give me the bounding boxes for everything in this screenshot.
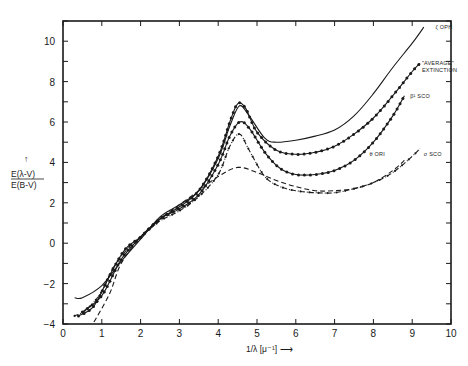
y-axis-title-numerator: E(λ-V) <box>11 169 35 179</box>
x-tick-label: 3 <box>177 328 183 339</box>
data-point-marker <box>114 269 117 272</box>
data-point-marker <box>308 191 310 193</box>
x-tick-label: 7 <box>332 328 338 339</box>
data-point-marker <box>383 105 386 108</box>
data-point-marker <box>247 126 250 129</box>
y-tick-label: −4 <box>44 319 56 330</box>
data-point-marker <box>344 165 347 168</box>
data-point-marker <box>256 132 259 135</box>
data-point-marker <box>234 105 237 108</box>
data-point-marker <box>371 142 374 145</box>
data-point-marker <box>394 170 396 172</box>
data-point-marker <box>142 234 144 236</box>
data-point-marker <box>399 102 402 105</box>
series-label-ori: θ ORI <box>370 151 386 157</box>
data-point-marker <box>333 169 336 172</box>
plot-border <box>63 21 451 324</box>
data-point-marker <box>408 158 410 160</box>
data-point-marker <box>267 156 270 159</box>
data-point-marker <box>237 121 240 124</box>
data-point-marker <box>321 172 324 175</box>
data-point-marker <box>382 128 385 131</box>
data-point-marker <box>299 190 301 192</box>
data-point-marker <box>213 180 215 182</box>
data-point-marker <box>225 156 227 158</box>
data-point-marker <box>342 140 345 143</box>
data-point-marker <box>108 280 111 283</box>
data-point-marker <box>74 315 76 317</box>
data-point-marker <box>228 136 231 139</box>
data-point-marker <box>275 164 278 167</box>
data-point-marker <box>232 139 234 141</box>
data-point-marker <box>378 179 380 181</box>
data-point-marker <box>344 190 346 192</box>
data-point-marker <box>309 152 312 155</box>
data-point-marker <box>362 185 364 187</box>
data-point-marker <box>248 115 251 118</box>
data-point-marker <box>82 311 84 313</box>
data-point-marker <box>347 136 350 139</box>
data-point-marker <box>233 125 236 128</box>
data-point-marker <box>243 139 245 141</box>
data-point-marker <box>213 169 216 172</box>
y-tick-label: 2 <box>49 198 55 209</box>
data-point-marker <box>251 131 254 134</box>
data-point-marker <box>264 140 267 143</box>
y-axis-title-denominator: E(B-V) <box>11 180 37 190</box>
x-tick-label: 0 <box>60 328 66 339</box>
data-point-marker <box>200 193 202 195</box>
data-point-marker <box>317 192 319 194</box>
data-point-marker <box>155 223 157 225</box>
data-point-marker <box>256 163 258 165</box>
data-point-marker <box>327 171 330 174</box>
data-point-marker <box>303 153 306 156</box>
data-point-marker <box>291 172 294 175</box>
data-point-marker <box>89 306 91 308</box>
data-point-marker <box>218 173 220 175</box>
extinction-chart: 012345678910−4−20246810 ζ OPH"AVERAGE"EX… <box>0 0 468 366</box>
data-point-marker <box>353 188 355 190</box>
data-point-marker <box>222 164 224 166</box>
data-point-marker <box>252 155 254 157</box>
data-point-marker <box>337 143 340 146</box>
y-tick-label: 0 <box>49 238 55 249</box>
data-point-marker <box>413 67 416 70</box>
data-point-marker <box>261 171 263 173</box>
data-point-marker <box>366 122 369 125</box>
series-label-average-extinction: "AVERAGE"EXTINCTION <box>422 60 457 73</box>
data-point-marker <box>396 108 399 111</box>
series-labels: ζ OPH"AVERAGE"EXTINCTIONβ¹ SCOθ ORIσ SCO <box>370 24 458 157</box>
data-point-marker <box>208 172 211 175</box>
data-point-marker <box>221 153 224 156</box>
data-point-marker <box>171 214 173 216</box>
data-point-marker <box>386 175 388 177</box>
data-point-marker <box>405 77 408 80</box>
data-point-marker <box>326 192 328 194</box>
data-point-marker <box>282 187 284 189</box>
data-point-marker <box>315 173 318 176</box>
data-point-marker <box>390 95 393 98</box>
x-tick-label: 5 <box>254 328 260 339</box>
data-point-marker <box>260 136 263 139</box>
data-point-marker <box>179 209 181 211</box>
x-tick-label: 1 <box>99 328 105 339</box>
data-point-marker <box>357 129 360 132</box>
data-point-marker <box>398 86 401 89</box>
data-point-marker <box>362 126 365 129</box>
data-point-marker <box>226 128 229 131</box>
data-point-marker <box>297 153 300 156</box>
data-point-marker <box>417 63 420 66</box>
data-point-marker <box>243 121 246 124</box>
data-point-marker <box>254 136 257 139</box>
data-point-marker <box>104 284 106 286</box>
data-point-marker <box>232 111 235 114</box>
data-point-marker <box>260 146 263 149</box>
data-point-marker <box>269 144 272 147</box>
data-point-marker <box>394 91 397 94</box>
data-point-marker <box>279 151 282 154</box>
data-point-marker <box>210 174 213 177</box>
data-point-marker <box>197 194 200 197</box>
data-point-marker <box>230 117 233 120</box>
data-point-marker <box>375 137 378 140</box>
data-point-marker <box>335 191 337 193</box>
